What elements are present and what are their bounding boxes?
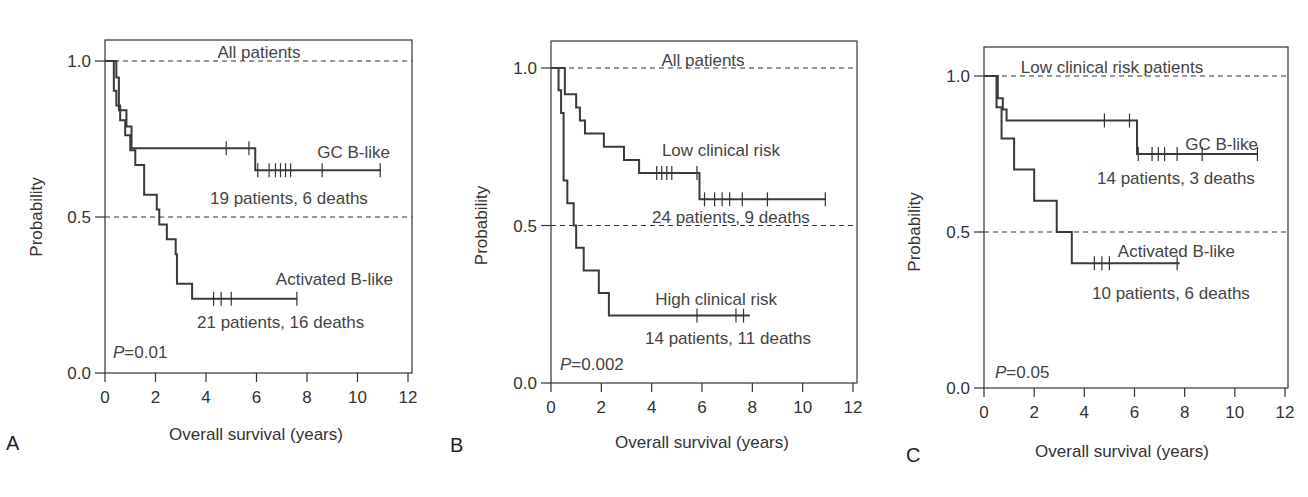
x-tick-label: 6 (252, 388, 261, 407)
panel-letter: A (6, 432, 20, 454)
x-tick-label: 8 (302, 388, 311, 407)
x-tick-label: 2 (1029, 403, 1038, 422)
p-value: P=0.05 (995, 363, 1049, 382)
series-label: High clinical risk (655, 290, 777, 309)
y-axis-label: Probability (905, 192, 924, 272)
y-tick-label: 0.5 (946, 223, 970, 242)
series-label: GC B-like (317, 143, 390, 162)
series-label: Activated B-like (1118, 242, 1235, 261)
y-tick-label: 0.0 (946, 379, 970, 398)
panel-title: All patients (661, 51, 744, 70)
y-tick-label: 0.5 (67, 208, 91, 227)
x-tick-label: 4 (1080, 403, 1089, 422)
panel-letter: C (906, 444, 920, 466)
x-tick-label: 0 (979, 403, 988, 422)
x-tick-label: 6 (1130, 403, 1139, 422)
x-tick-label: 0 (546, 398, 555, 417)
panel-letter: B (450, 434, 463, 456)
y-tick-label: 0.0 (513, 374, 537, 393)
y-tick-label: 0.5 (513, 217, 537, 236)
x-tick-label: 12 (844, 398, 863, 417)
x-tick-label: 12 (399, 388, 418, 407)
series-caption: 21 patients, 16 deaths (197, 313, 364, 332)
panel-c: 0.00.51.0024681012Overall survival (year… (905, 47, 1294, 466)
y-tick-label: 1.0 (513, 59, 537, 78)
series-label: GC B-like (1185, 135, 1258, 154)
y-axis-label: Probability (472, 185, 491, 265)
series-caption: 24 patients, 9 deaths (652, 208, 810, 227)
y-tick-label: 0.0 (67, 364, 91, 383)
p-value: P=0.01 (113, 343, 167, 362)
y-tick-label: 1.0 (67, 52, 91, 71)
x-tick-label: 10 (1225, 403, 1244, 422)
survival-curve-2 (105, 61, 297, 299)
series-label: Activated B-like (276, 270, 393, 289)
x-tick-label: 4 (201, 388, 210, 407)
panel-a: 0.00.51.0024681012Overall survival (year… (6, 40, 417, 454)
plot-frame (984, 47, 1288, 388)
panel-title: Low clinical risk patients (1021, 58, 1203, 77)
x-tick-label: 8 (748, 398, 757, 417)
x-tick-label: 0 (100, 388, 109, 407)
x-tick-label: 8 (1180, 403, 1189, 422)
series-caption: 10 patients, 6 deaths (1092, 284, 1250, 303)
y-axis-label: Probability (27, 177, 46, 257)
survival-curve-2 (551, 68, 750, 316)
panel-title: All patients (217, 43, 300, 62)
panel-b: 0.00.51.0024681012Overall survival (year… (450, 41, 862, 456)
x-axis-label: Overall survival (years) (615, 433, 789, 452)
series-caption: 14 patients, 11 deaths (645, 329, 811, 348)
x-tick-label: 12 (1276, 403, 1295, 422)
series-caption: 19 patients, 6 deaths (210, 189, 368, 208)
x-tick-label: 2 (597, 398, 606, 417)
x-tick-label: 6 (697, 398, 706, 417)
survival-curve-1 (551, 68, 825, 199)
series-caption: 14 patients, 3 deaths (1097, 169, 1255, 188)
x-tick-label: 2 (151, 388, 160, 407)
p-value: P=0.002 (560, 355, 624, 374)
x-tick-label: 10 (793, 398, 812, 417)
y-tick-label: 1.0 (946, 67, 970, 86)
x-tick-label: 10 (348, 388, 367, 407)
series-label: Low clinical risk (662, 141, 781, 160)
km-figure: 0.00.51.0024681012Overall survival (year… (0, 0, 1308, 497)
x-axis-label: Overall survival (years) (1035, 442, 1209, 461)
x-tick-label: 4 (647, 398, 656, 417)
x-axis-label: Overall survival (years) (169, 425, 343, 444)
